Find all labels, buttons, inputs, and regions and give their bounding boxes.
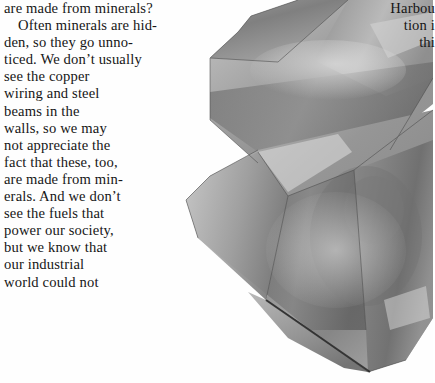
text-line: wiring and steel [4, 85, 194, 102]
text-line: thi [315, 34, 435, 51]
minerals-body-text: are made from minerals?Often minerals ar… [4, 0, 194, 291]
text-line: beams in the [4, 103, 194, 120]
text-line: see the fuels that [4, 205, 194, 222]
text-line: are made from min- [4, 171, 194, 188]
text-line: fact that these, too, [4, 154, 194, 171]
text-line: power our society, [4, 222, 194, 239]
text-line: den, so they go unno- [4, 34, 194, 51]
text-line: are made from minerals? [4, 0, 194, 17]
crystal-glow-lower [266, 192, 406, 308]
text-line: world could not [4, 274, 194, 291]
text-line: see the copper [4, 68, 194, 85]
text-line: Harbou [315, 0, 435, 17]
text-line: not appreciate the [4, 137, 194, 154]
text-line: but we know that [4, 239, 194, 256]
text-line: tion i [315, 17, 435, 34]
text-line: Often minerals are hid- [4, 17, 194, 34]
text-line: our industrial [4, 256, 194, 273]
text-line: erals. And we don’t [4, 188, 194, 205]
clipped-right-text: Harboution ithi [315, 0, 435, 51]
text-line: ticed. We don’t usually [4, 51, 194, 68]
text-line: walls, so we may [4, 120, 194, 137]
